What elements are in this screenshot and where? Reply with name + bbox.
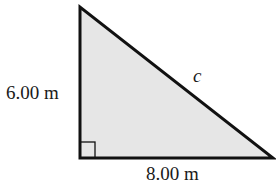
vertical-leg-label: 6.00 m <box>6 83 59 102</box>
horizontal-leg-label: 8.00 m <box>146 164 199 183</box>
hypotenuse-label: c <box>193 66 201 85</box>
triangle-shape <box>80 7 273 158</box>
